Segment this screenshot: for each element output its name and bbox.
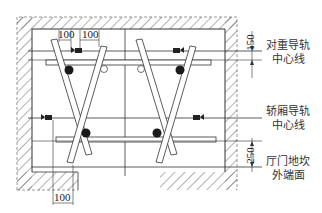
dim-100-bottom: 100 bbox=[54, 192, 71, 203]
shaft-diagram: 100 100 100 150 250 对重导轨 中心线 轿厢导轨 中心线 厅门… bbox=[0, 0, 322, 213]
label-landing-sill: 厅门地坎 外端面 bbox=[266, 155, 310, 183]
label-counterweight-rail: 对重导轨 中心线 bbox=[266, 39, 310, 67]
right-cross-braces bbox=[136, 39, 196, 163]
dim-150: 150 bbox=[245, 34, 256, 51]
left-cross-braces bbox=[51, 39, 107, 163]
shaft-wall bbox=[17, 17, 237, 190]
dim-100-left: 100 bbox=[58, 29, 75, 40]
dim-250: 250 bbox=[245, 147, 256, 164]
dim-100-right: 100 bbox=[82, 29, 99, 40]
label-car-rail: 轿厢导轨 中心线 bbox=[266, 105, 310, 133]
